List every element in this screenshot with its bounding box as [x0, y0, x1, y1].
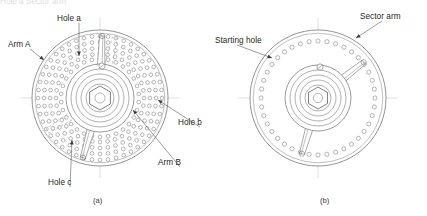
index-hole — [148, 104, 152, 108]
index-hole — [325, 152, 329, 156]
index-hole — [76, 58, 80, 62]
index-hole — [56, 59, 60, 63]
index-hole — [90, 47, 94, 51]
index-hole — [38, 80, 42, 84]
index-hole — [47, 73, 51, 77]
index-hole — [141, 104, 145, 108]
index-hole — [135, 108, 139, 112]
index-hole — [75, 147, 79, 151]
index-hole — [67, 42, 71, 46]
index-hole — [128, 49, 132, 53]
index-hole — [98, 152, 102, 156]
index-hole — [149, 119, 153, 123]
index-hole — [51, 112, 55, 116]
index-hole — [136, 74, 140, 78]
index-hole — [136, 145, 140, 149]
index-hole — [372, 105, 376, 109]
index-hole — [43, 104, 47, 108]
index-hole — [83, 55, 87, 59]
index-hole — [57, 81, 61, 85]
index-hole — [140, 111, 144, 115]
index-hole — [146, 112, 150, 116]
index-hole — [98, 140, 102, 144]
index-hole — [55, 104, 59, 108]
sector-arm-label: Sector arm — [360, 12, 401, 21]
index-hole — [373, 96, 377, 100]
index-hole — [106, 158, 110, 162]
index-hole — [128, 143, 132, 147]
index-hole — [139, 67, 143, 71]
index-hole — [270, 129, 274, 133]
index-hole — [127, 70, 131, 74]
index-hole — [135, 54, 139, 58]
index-hole — [90, 158, 94, 162]
index-hole — [75, 45, 79, 49]
index-hole — [135, 84, 139, 88]
index-hole — [51, 66, 55, 70]
index-hole — [141, 89, 145, 93]
index-hole — [41, 120, 45, 124]
index-hole — [140, 59, 144, 63]
index-hole — [307, 40, 311, 44]
index-hole — [114, 156, 118, 160]
index-hole — [67, 150, 71, 154]
index-hole — [57, 111, 61, 115]
index-hole — [121, 147, 125, 151]
arm-a-label: Arm A — [8, 40, 31, 49]
index-hole — [58, 67, 62, 71]
index-hole — [259, 96, 263, 100]
index-hole — [98, 146, 102, 150]
index-hole — [106, 41, 110, 45]
index-hole — [60, 47, 64, 51]
index-hole — [349, 50, 353, 54]
index-hole — [106, 35, 110, 39]
index-hole — [64, 77, 68, 81]
index-hole — [51, 81, 55, 85]
index-hole — [90, 41, 94, 45]
index-hole — [147, 58, 151, 62]
index-hole — [148, 96, 152, 100]
index-hole — [142, 140, 146, 144]
index-hole — [356, 136, 360, 140]
index-hole — [106, 152, 110, 156]
index-hole — [265, 122, 269, 126]
arm-b-label: Arm B — [158, 158, 181, 167]
index-hole — [134, 61, 138, 65]
index-hole — [154, 88, 158, 92]
index-hole — [127, 122, 131, 126]
figure-container: Hole a Sector arm Hole a Arm A Hole b Ar… — [0, 0, 427, 216]
index-hole — [82, 132, 86, 136]
index-hole — [106, 58, 110, 62]
index-hole — [316, 153, 320, 157]
index-hole — [136, 118, 140, 122]
index-hole — [83, 49, 87, 53]
index-hole — [74, 153, 78, 157]
index-hole — [61, 84, 65, 88]
index-hole — [149, 73, 153, 77]
index-hole — [74, 39, 78, 43]
index-hole — [76, 134, 80, 138]
index-hole — [37, 104, 41, 108]
index-hole — [132, 116, 136, 120]
index-hole — [49, 58, 53, 62]
index-hole — [260, 87, 264, 91]
index-hole — [276, 56, 280, 60]
index-hole — [334, 150, 338, 154]
index-hole — [106, 146, 110, 150]
index-hole — [61, 108, 65, 112]
index-hole — [54, 52, 58, 56]
starting-hole-label-leader — [237, 45, 272, 58]
index-hole — [137, 100, 141, 104]
index-hole — [265, 70, 269, 74]
index-hole — [82, 61, 86, 65]
index-hole — [106, 134, 110, 138]
index-hole — [98, 135, 102, 139]
index-hole — [63, 61, 67, 65]
index-hole — [43, 88, 47, 92]
index-hole — [154, 104, 158, 108]
index-hole — [290, 45, 294, 49]
index-hole — [370, 114, 374, 118]
index-hole — [44, 65, 48, 69]
index-hole — [61, 54, 65, 58]
index-hole — [126, 62, 130, 66]
